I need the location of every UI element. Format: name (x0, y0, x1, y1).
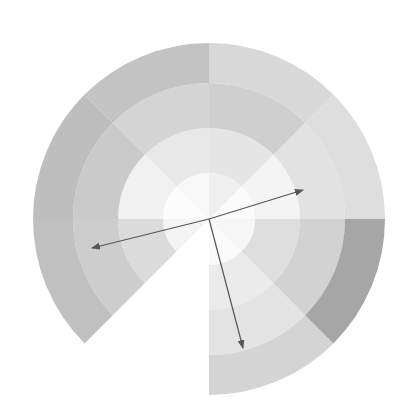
polar-chart-figure (0, 0, 408, 420)
polar-chart-canvas (0, 0, 408, 420)
